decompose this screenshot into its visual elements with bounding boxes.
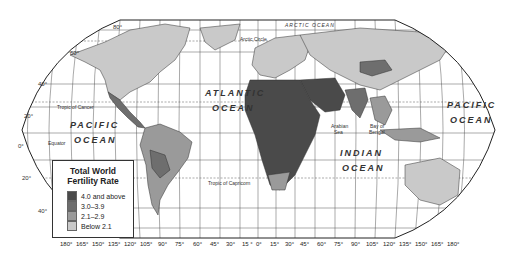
atlantic-ocean-label: ATLANTIC: [205, 88, 265, 98]
lat-40n-label: 40°: [38, 81, 47, 87]
swatch-icon: [67, 191, 77, 201]
tropic-of-capricorn-label: Tropic of Capricorn: [208, 180, 250, 186]
lon-label: 45°: [300, 241, 309, 247]
arabian-sea-label-2: Sea: [334, 129, 343, 135]
lon-label: 15 °: [242, 241, 253, 247]
legend-item-label: 2.1–2.9: [81, 213, 104, 220]
lon-label: 90°: [158, 241, 167, 247]
lon-label: 60°: [317, 241, 326, 247]
lon-label: 180°: [447, 241, 459, 247]
lon-label: 45°: [210, 241, 219, 247]
pacific-ocean-west-label: PACIFIC: [70, 120, 119, 130]
pacific-ocean-west-label-2: OCEAN: [74, 135, 117, 145]
legend-item-label: 3.0–3.9: [81, 203, 104, 210]
legend-item-4-plus: 4.0 and above: [67, 191, 133, 201]
legend-title-line1: Total World: [53, 166, 133, 176]
lon-label: 30°: [285, 241, 294, 247]
lon-label: 0°: [256, 241, 262, 247]
lon-label: 75°: [334, 241, 343, 247]
tropic-of-cancer-label: Tropic of Cancer: [57, 104, 94, 110]
legend-title: Total World Fertility Rate: [53, 166, 133, 186]
lon-label: 165°: [76, 241, 88, 247]
lat-40s-label: 40°: [38, 208, 47, 214]
legend-item-label: 4.0 and above: [81, 193, 125, 200]
lon-label: 120°: [383, 241, 395, 247]
arctic-ocean-label: ARCTIC OCEAN: [285, 22, 335, 28]
lon-label: 30°: [226, 241, 235, 247]
bay-of-bengal-label-2: Bengal: [369, 129, 385, 135]
atlantic-ocean-label-2: OCEAN: [212, 103, 255, 113]
indian-ocean-label: INDIAN: [340, 148, 383, 158]
lon-label: 135°: [108, 241, 120, 247]
lon-label: 60°: [193, 241, 202, 247]
lon-label: 180°: [60, 241, 72, 247]
indian-ocean-label-2: OCEAN: [342, 163, 385, 173]
lon-label: 150°: [415, 241, 427, 247]
lon-label: 15°: [270, 241, 279, 247]
lon-label: 135°: [399, 241, 411, 247]
arctic-circle-label: Arctic Circle: [240, 36, 267, 42]
swatch-icon: [67, 211, 77, 221]
legend-item-2.1-to-2.9: 2.1–2.9: [67, 211, 133, 221]
lon-label: 105°: [366, 241, 378, 247]
legend-item-3-to-3.9: 3.0–3.9: [67, 201, 133, 211]
lon-label: 150°: [92, 241, 104, 247]
lon-label: 75°: [175, 241, 184, 247]
swatch-icon: [67, 201, 77, 211]
lat-0-label: 0°: [18, 143, 24, 149]
lat-20s-label: 20°: [22, 175, 31, 181]
lon-label: 105°: [140, 241, 152, 247]
lat-60-label: 60°: [70, 50, 79, 56]
swatch-icon: [67, 221, 77, 231]
lat-20n-label: 20°: [24, 113, 33, 119]
fertility-rate-legend: Total World Fertility Rate 4.0 and above…: [52, 160, 134, 238]
lon-label: 90°: [351, 241, 360, 247]
lat-80-label: 80°: [113, 24, 122, 30]
pacific-ocean-east-label: PACIFIC: [447, 100, 496, 110]
lon-label: 120°: [124, 241, 136, 247]
lon-label: 165°: [431, 241, 443, 247]
equator-label: Equator: [48, 140, 66, 146]
legend-title-line2: Fertility Rate: [53, 176, 133, 186]
pacific-ocean-east-label-2: OCEAN: [450, 115, 493, 125]
legend-item-label: Below 2.1: [81, 223, 112, 230]
legend-item-below-2.1: Below 2.1: [67, 221, 133, 231]
